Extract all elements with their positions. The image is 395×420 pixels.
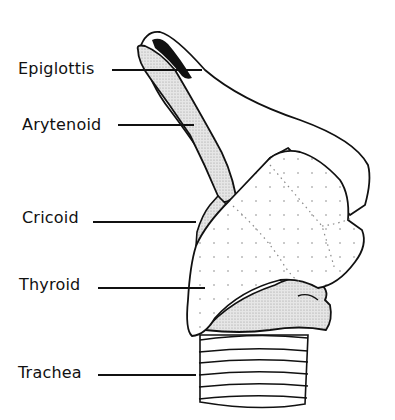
leader-line-thyroid <box>98 287 205 289</box>
label-thyroid: Thyroid <box>19 276 80 294</box>
label-cricoid: Cricoid <box>22 209 79 227</box>
larynx-diagram: Epiglottis Arytenoid Cricoid Thyroid Tra… <box>0 0 395 420</box>
trachea-shape <box>199 335 308 408</box>
label-trachea: Trachea <box>18 364 82 382</box>
label-epiglottis: Epiglottis <box>18 60 94 78</box>
leader-line-arytenoid <box>118 124 194 126</box>
label-arytenoid: Arytenoid <box>22 116 101 134</box>
leader-line-cricoid <box>93 221 196 223</box>
leader-line-trachea <box>98 374 196 376</box>
leader-line-epiglottis <box>112 69 202 71</box>
